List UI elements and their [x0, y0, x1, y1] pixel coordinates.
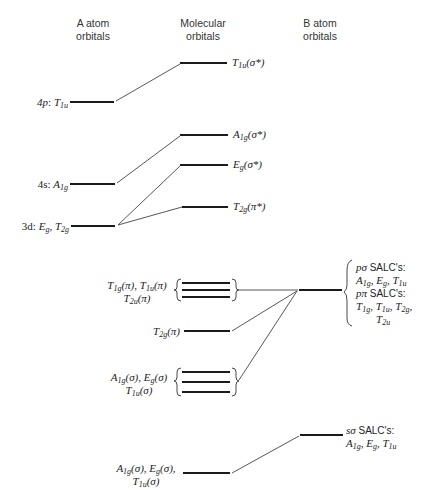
label-3d-prefix: 3d: [22, 220, 33, 232]
label-b-s-salcs: sσ SALC's: A1g, Eg, T1u: [346, 424, 397, 450]
mo1-tag: (σ*): [248, 128, 266, 140]
label-4s-a1g: 4s: A1g: [10, 178, 68, 191]
label-b-p-salcs: pσ SALC's: A1g, Eg, T1u pπ SALC's: T1g, …: [356, 261, 412, 326]
label-4s-prefix: 4s: [38, 178, 48, 190]
orbital-lines: [0, 0, 428, 490]
label-4p-sub: 1u: [60, 101, 68, 110]
label-4s-sym: A: [53, 178, 60, 190]
label-3d-eg-t2g: 3d: Eg, T2g: [0, 220, 69, 233]
label-bonding-sigma: A1g(σ), Eg(σ), T1u(σ): [110, 462, 182, 488]
mo0-sub: 1u: [238, 61, 246, 70]
label-4s-sub: 1g: [60, 183, 68, 192]
mo0-tag: (σ*): [246, 56, 264, 68]
label-4p-t1u: 4p: T1u: [10, 96, 68, 109]
label-t2g-pi-star: T2g(π*): [233, 200, 265, 213]
label-t1u-sigma-star: T1u(σ*): [232, 56, 264, 69]
label-t2g-pi: T2g(π): [130, 325, 180, 338]
mo2-tag: (σ*): [244, 158, 262, 170]
label-nonbonding-pi: T1g(π), T1u(π) T2u(π): [100, 279, 174, 305]
label-a1g-sigma-star: A1g(σ*): [233, 128, 266, 141]
mo1-sym: A: [233, 128, 240, 140]
label-eg-sigma-star: Eg(σ*): [233, 158, 262, 171]
label-4p-prefix: 4p: [37, 96, 48, 108]
mo3-tag: (π*): [247, 200, 265, 212]
mo3-sub: 2g: [239, 205, 247, 214]
label-sigma-set: A1g(σ), Eg(σ) T1u(σ): [104, 371, 174, 397]
mo1-sub: 1g: [240, 133, 248, 142]
mo2-sym: E: [233, 158, 240, 170]
